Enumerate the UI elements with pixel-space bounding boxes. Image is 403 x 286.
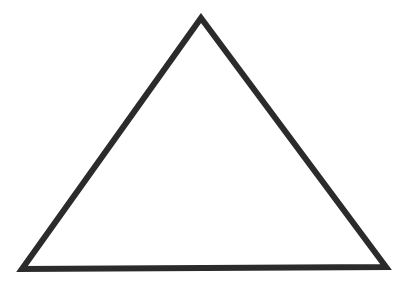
triangle-diagram bbox=[0, 0, 403, 286]
